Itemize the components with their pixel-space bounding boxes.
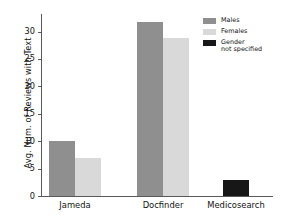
x-axis-spine <box>41 196 273 197</box>
y-tick-20: 20 <box>0 86 41 87</box>
legend-item-females: Females <box>203 28 281 35</box>
y-tick-label: 20 <box>25 81 35 92</box>
bar-jameda-females <box>75 158 101 196</box>
bar-docfinder-males <box>137 22 163 196</box>
y-tick-15: 15 <box>0 114 41 115</box>
legend-label: Gender not specified <box>221 39 262 54</box>
bar-chart-figure: Avg. Num. of Reviews with Text 051015202… <box>0 0 283 219</box>
y-tick-label: 5 <box>30 163 35 174</box>
y-tick-10: 10 <box>0 141 41 142</box>
y-tick-label: 0 <box>30 191 35 202</box>
bar-medicosearch-gender-not-specified <box>223 180 249 196</box>
bar-jameda-males <box>49 141 75 196</box>
y-tick-label: 10 <box>25 136 35 147</box>
y-tick-25: 25 <box>0 59 41 60</box>
chart-legend: MalesFemalesGender not specified <box>203 17 281 57</box>
legend-swatch-icon <box>203 29 216 35</box>
y-tick-label: 15 <box>25 108 35 119</box>
y-tick-mark <box>38 196 41 197</box>
x-tick-label-docfinder: Docfinder <box>143 200 184 210</box>
bar-docfinder-females <box>163 38 189 196</box>
y-tick-5: 5 <box>0 169 41 170</box>
legend-item-males: Males <box>203 17 281 24</box>
y-tick-label: 25 <box>25 53 35 64</box>
x-tick-label-jameda: Jameda <box>59 200 90 210</box>
x-tick-label-medicosearch: Medicosearch <box>207 200 265 210</box>
y-tick-30: 30 <box>0 32 41 33</box>
legend-label: Males <box>221 17 239 24</box>
legend-item-gender-not-specified: Gender not specified <box>203 39 281 54</box>
legend-label: Females <box>221 28 247 35</box>
legend-swatch-icon <box>203 40 216 46</box>
y-tick-0: 0 <box>0 196 41 197</box>
legend-swatch-icon <box>203 18 216 24</box>
y-tick-label: 30 <box>25 26 35 37</box>
